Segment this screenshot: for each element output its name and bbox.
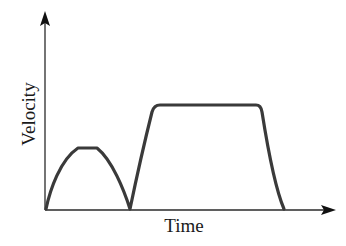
velocity-curve (46, 105, 284, 209)
x-axis-label: Time (164, 216, 203, 235)
y-axis-label: Velocity (19, 82, 38, 145)
velocity-time-chart: Velocity Time (0, 0, 346, 246)
chart-canvas (0, 0, 346, 246)
